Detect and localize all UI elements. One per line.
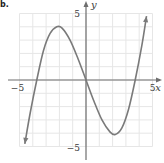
- y-tick-label: −5: [67, 143, 81, 153]
- x-tick-label: −5: [11, 83, 25, 93]
- curve-start-arrow-icon: [23, 137, 28, 143]
- y-tick-label: 5: [74, 9, 80, 19]
- x-axis-label: x: [155, 82, 161, 93]
- part-label: b.: [0, 0, 9, 9]
- y-axis-arrow-icon: [84, 1, 89, 7]
- y-axis-label: y: [90, 0, 97, 10]
- function-graph: b. −555−5yx: [0, 0, 164, 163]
